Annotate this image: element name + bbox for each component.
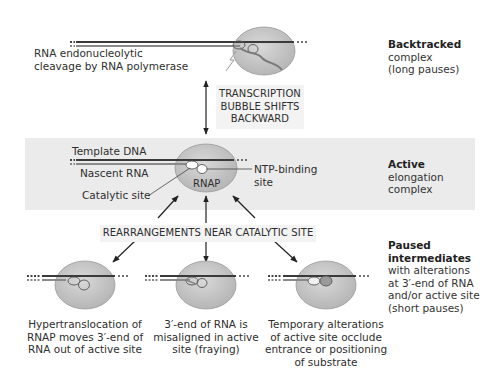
rearrangements-box: REARRANGEMENTS NEAR CATALYTIC SITE — [100, 225, 316, 242]
cleavage-label: RNA endonucleolytic cleavage by RNA poly… — [34, 47, 188, 72]
active-site-alteration-caption: Temporary alterations of active site occ… — [264, 318, 388, 368]
catalytic-site-icon — [186, 161, 198, 169]
nascent-rna-label: Nascent RNA — [80, 167, 148, 180]
ntp-binding-site-icon — [197, 165, 207, 174]
active-side-label: Active elongation complex — [388, 158, 444, 196]
catalytic-site-label: Catalytic site — [82, 189, 151, 202]
paused-active-site-altered — [268, 261, 369, 309]
hypertranslocation-caption: Hypertranslocation of RNAP moves 3′-end … — [24, 318, 146, 356]
paused-side-label: Paused intermediates with alterations at… — [388, 239, 480, 314]
template-dna-label: Template DNA — [72, 145, 146, 158]
fraying-caption: 3′-end of RNA is misaligned in active si… — [150, 318, 262, 356]
ntp-binding-site-label: NTP-binding site — [254, 163, 317, 188]
rnap-backtracked-icon — [233, 27, 295, 75]
paused-fraying — [145, 261, 249, 309]
backtracked-side-label: Backtracked complex (long pauses) — [388, 38, 461, 76]
paused-hypertranslocated — [27, 261, 128, 309]
rnap-label: RNAP — [193, 178, 220, 191]
transcription-bubble-box: TRANSCRIPTION BUBBLE SHIFTS BACKWARD — [216, 85, 304, 129]
